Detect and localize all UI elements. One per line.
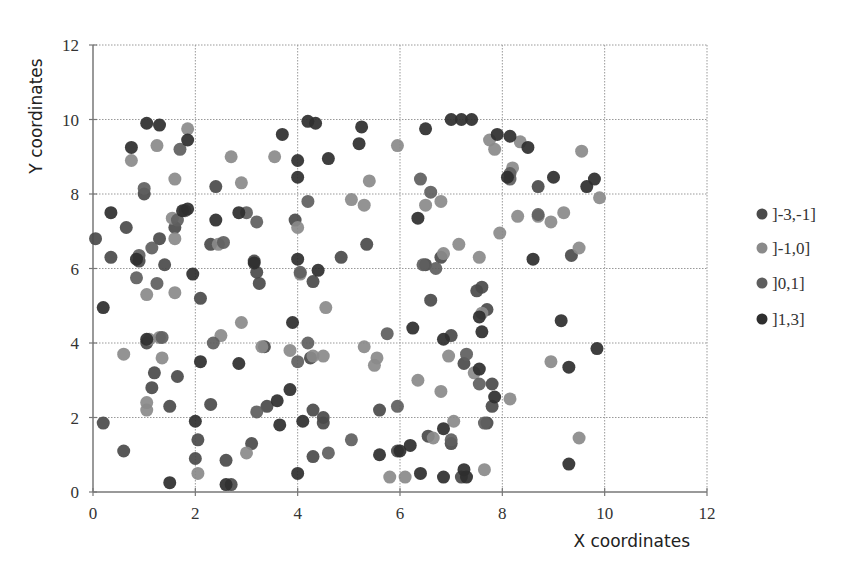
data-point <box>209 214 222 227</box>
data-point <box>429 262 442 275</box>
x-axis-title: X coordinates <box>573 531 690 551</box>
data-point <box>130 271 143 284</box>
data-point <box>573 242 586 255</box>
data-point <box>291 467 304 480</box>
data-point <box>163 476 176 489</box>
data-point <box>268 150 281 163</box>
legend-item: ]0,1] <box>757 274 805 293</box>
data-point <box>181 122 194 135</box>
data-point <box>291 154 304 167</box>
data-point <box>168 173 181 186</box>
data-point <box>168 286 181 299</box>
y-tick-labels: 024681012 <box>62 36 97 502</box>
data-point <box>158 258 171 271</box>
legend-item: ]1,3] <box>757 310 805 329</box>
data-point <box>381 327 394 340</box>
data-point <box>291 221 304 234</box>
data-point <box>232 357 245 370</box>
data-point <box>544 215 557 228</box>
data-point <box>532 180 545 193</box>
data-point <box>89 232 102 245</box>
data-point <box>475 325 488 338</box>
data-point <box>307 275 320 288</box>
data-point <box>593 191 606 204</box>
data-point <box>250 215 263 228</box>
data-point <box>399 471 412 484</box>
data-point <box>411 374 424 387</box>
data-point <box>97 417 110 430</box>
data-point <box>207 337 220 350</box>
data-point <box>217 236 230 249</box>
y-tick-label: 2 <box>71 409 80 428</box>
data-point <box>345 193 358 206</box>
data-point <box>424 294 437 307</box>
x-tick-label: 12 <box>699 504 716 523</box>
data-point <box>437 247 450 260</box>
legend-label: ]1,3] <box>772 310 805 329</box>
data-point <box>445 433 458 446</box>
data-point <box>521 141 534 154</box>
data-point <box>383 471 396 484</box>
data-point <box>358 199 371 212</box>
data-point <box>465 113 478 126</box>
data-point <box>240 446 253 459</box>
legend: ]-3,-1] ]-1,0] ]0,1] ]1,3] <box>757 205 816 329</box>
data-point <box>130 253 143 266</box>
x-tick-labels: 024681012 <box>89 488 716 523</box>
data-point <box>117 445 130 458</box>
data-point <box>427 431 440 444</box>
data-point <box>140 333 153 346</box>
data-point <box>232 206 245 219</box>
data-point <box>191 467 204 480</box>
data-point <box>373 448 386 461</box>
x-tick-label: 10 <box>596 504 613 523</box>
data-point <box>220 454 233 467</box>
data-point <box>511 210 524 223</box>
data-point <box>360 238 373 251</box>
data-point <box>363 174 376 187</box>
data-point <box>353 137 366 150</box>
data-point <box>235 176 248 189</box>
data-point <box>478 463 491 476</box>
data-point <box>125 154 138 167</box>
data-point <box>291 253 304 266</box>
data-point <box>189 452 202 465</box>
data-point <box>140 288 153 301</box>
data-point <box>145 242 158 255</box>
data-point <box>491 128 504 141</box>
y-tick-label: 0 <box>71 483 80 502</box>
data-point <box>358 340 371 353</box>
data-point <box>248 256 261 269</box>
data-point <box>414 173 427 186</box>
data-point <box>557 206 570 219</box>
data-point <box>204 398 217 411</box>
data-point <box>301 195 314 208</box>
data-point <box>309 117 322 130</box>
data-point <box>406 322 419 335</box>
data-point <box>473 377 486 390</box>
data-point <box>414 467 427 480</box>
data-point <box>291 171 304 184</box>
data-point <box>391 400 404 413</box>
data-point <box>191 433 204 446</box>
data-point <box>156 331 169 344</box>
data-point <box>424 186 437 199</box>
data-point <box>294 266 307 279</box>
data-point <box>125 141 138 154</box>
data-point <box>181 133 194 146</box>
data-point <box>120 221 133 234</box>
data-point <box>181 202 194 215</box>
data-point <box>322 446 335 459</box>
data-point <box>473 310 486 323</box>
data-point <box>153 119 166 132</box>
data-point <box>138 182 151 195</box>
data-point <box>478 417 491 430</box>
legend-label: ]-1,0] <box>772 239 810 258</box>
data-point <box>140 117 153 130</box>
data-point <box>460 348 473 361</box>
data-point <box>104 251 117 264</box>
data-point <box>194 292 207 305</box>
data-point <box>475 281 488 294</box>
data-point <box>442 350 455 363</box>
data-point <box>253 277 266 290</box>
